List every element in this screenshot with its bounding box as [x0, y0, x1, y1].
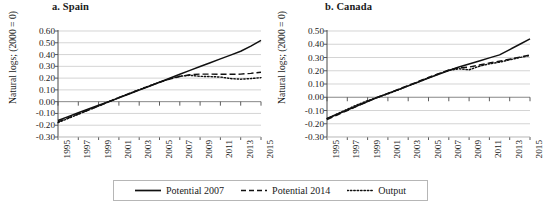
y-tick-label: 0.20 — [308, 66, 324, 75]
x-tick-label: 2007 — [453, 140, 463, 158]
x-tick-label: 2013 — [245, 140, 255, 158]
x-tick-label: 1997 — [351, 140, 361, 158]
x-tick-label: 2003 — [143, 140, 153, 158]
y-tick-label: -0.20 — [305, 119, 324, 128]
y-tick-label: 0.00 — [39, 97, 55, 106]
chart-legend: Potential 2007Potential 2014Output — [113, 180, 428, 201]
x-tick-label: 1997 — [82, 140, 92, 158]
legend-label: Potential 2014 — [272, 186, 330, 196]
x-tick-label: 2005 — [433, 140, 443, 158]
series-line — [327, 56, 530, 119]
y-tick-label: 0.20 — [39, 74, 55, 83]
y-axis-ticks-canada: 0.500.400.300.200.100.00-0.10-0.20-0.30 — [293, 31, 326, 139]
x-tick-label: 2001 — [392, 140, 402, 158]
y-tick-label: -0.30 — [36, 133, 55, 142]
y-tick-label: 0.10 — [39, 85, 55, 94]
y-tick-label: 0.00 — [308, 93, 324, 102]
y-tick-label: -0.10 — [36, 109, 55, 118]
plot-area-spain: 0.600.500.400.300.200.100.00-0.10-0.20-0… — [0, 0, 269, 178]
y-tick-label: 0.50 — [308, 27, 324, 36]
y-tick-label: 0.10 — [308, 80, 324, 89]
x-tick-label: 2009 — [204, 140, 214, 158]
x-tick-label: 2015 — [534, 140, 544, 158]
y-tick-label: -0.10 — [305, 106, 324, 115]
x-tick-label: 2005 — [164, 140, 174, 158]
x-tick-label: 2013 — [514, 140, 524, 158]
x-tick-label: 2011 — [224, 140, 234, 158]
dashed-line-icon — [241, 186, 267, 195]
legend-item: Output — [347, 186, 406, 196]
x-tick-label: 2001 — [123, 140, 133, 158]
legend-item: Potential 2007 — [135, 186, 224, 196]
x-tick-label: 2007 — [184, 140, 194, 158]
y-axis-ticks-spain: 0.600.500.400.300.200.100.00-0.10-0.20-0… — [24, 31, 57, 139]
y-tick-label: -0.30 — [305, 133, 324, 142]
x-tick-label: 2003 — [412, 140, 422, 158]
chart-panels: a. Spain Natural logs; (2000 = 0) 0.600.… — [0, 0, 538, 178]
y-tick-label: 0.40 — [308, 40, 324, 49]
x-axis-ticks-canada: 1995199719992001200320052007200920112013… — [327, 140, 532, 174]
legend-label: Potential 2007 — [166, 186, 224, 196]
series-line — [58, 40, 261, 120]
x-tick-label: 1999 — [372, 140, 382, 158]
x-tick-label: 1995 — [62, 140, 72, 158]
x-tick-label: 1995 — [331, 140, 341, 158]
x-tick-label: 2009 — [473, 140, 483, 158]
x-tick-label: 1999 — [103, 140, 113, 158]
y-tick-label: 0.60 — [39, 27, 55, 36]
series-line — [58, 72, 261, 122]
x-axis-ticks-spain: 1995199719992001200320052007200920112013… — [58, 140, 263, 174]
y-tick-label: 0.40 — [39, 50, 55, 59]
solid-line-icon — [135, 186, 161, 195]
legend-item: Potential 2014 — [241, 186, 330, 196]
series-line — [327, 39, 530, 119]
plot-area-canada: 0.500.400.300.200.100.00-0.10-0.20-0.30 … — [269, 0, 538, 178]
chart-panel-canada: b. Canada Natural logs; (2000 = 0) 0.500… — [269, 0, 538, 178]
y-tick-label: -0.20 — [36, 121, 55, 130]
series-line — [58, 75, 261, 122]
chart-panel-spain: a. Spain Natural logs; (2000 = 0) 0.600.… — [0, 0, 269, 178]
legend-label: Output — [378, 186, 406, 196]
y-tick-label: 0.30 — [308, 53, 324, 62]
dotted-line-icon — [347, 186, 373, 195]
series-line — [327, 55, 530, 120]
x-tick-label: 2011 — [493, 140, 503, 158]
y-tick-label: 0.30 — [39, 62, 55, 71]
y-tick-label: 0.50 — [39, 38, 55, 47]
